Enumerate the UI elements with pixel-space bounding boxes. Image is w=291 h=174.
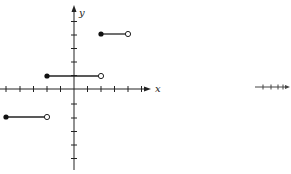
y-axis-arrow-icon — [72, 5, 77, 12]
y-axis-label: y — [78, 7, 85, 18]
closed-endpoint — [3, 114, 8, 119]
x-axis — [0, 86, 151, 92]
closed-endpoint — [44, 73, 49, 78]
x-axis-label: x — [155, 83, 161, 94]
open-endpoint — [44, 114, 49, 119]
open-endpoint — [125, 31, 130, 36]
x-axis-arrow-icon — [144, 87, 151, 92]
segment-1 — [3, 114, 49, 119]
open-endpoint — [98, 73, 103, 78]
closed-endpoint — [98, 31, 103, 36]
y-axis — [71, 5, 77, 170]
segment-3 — [98, 31, 130, 36]
axis-fragment-right — [255, 85, 290, 90]
arrow-icon — [285, 85, 290, 89]
step-function-plot: x y — [0, 0, 291, 174]
